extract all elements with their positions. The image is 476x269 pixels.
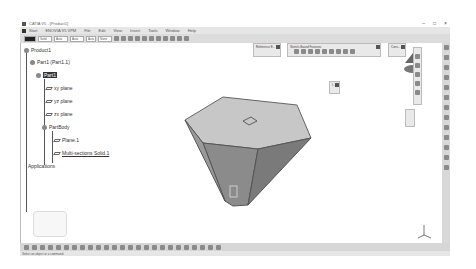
point-select[interactable]: Auto bbox=[70, 36, 84, 42]
tree-node-plane1[interactable]: Plane.1 bbox=[54, 137, 79, 143]
menu-file[interactable]: File bbox=[84, 28, 90, 33]
graphic-properties-toolbar: Solid Auto Auto Auto None bbox=[20, 34, 450, 43]
chamfer-icon[interactable] bbox=[444, 65, 449, 70]
layer-select[interactable]: Auto bbox=[86, 36, 96, 42]
save-icon[interactable] bbox=[40, 245, 45, 250]
thickness-select[interactable]: Auto bbox=[54, 36, 68, 42]
pan-icon[interactable] bbox=[120, 245, 125, 250]
sketch-icon[interactable] bbox=[184, 36, 189, 41]
tree-node-xy-plane[interactable]: xy plane bbox=[46, 85, 73, 91]
shaft-icon[interactable] bbox=[308, 49, 313, 54]
tree-node-yz-plane[interactable]: yz plane bbox=[46, 98, 73, 104]
mirror-icon[interactable] bbox=[444, 115, 449, 120]
tool-icon[interactable] bbox=[415, 54, 420, 59]
plane-icon bbox=[45, 100, 53, 103]
tool-icon[interactable] bbox=[415, 90, 420, 95]
hole-icon[interactable] bbox=[322, 49, 327, 54]
menu-help[interactable]: Help bbox=[188, 28, 196, 33]
update-icon[interactable] bbox=[96, 245, 101, 250]
normal-view-icon[interactable] bbox=[152, 245, 157, 250]
menu-enovia[interactable]: ENOVIA V5 VPM bbox=[45, 28, 76, 33]
minimize-button[interactable]: – bbox=[422, 20, 425, 26]
undo-icon[interactable] bbox=[80, 245, 85, 250]
fly-mode-icon[interactable] bbox=[104, 245, 109, 250]
close-icon[interactable] bbox=[401, 45, 405, 49]
open-icon[interactable] bbox=[32, 245, 37, 250]
analysis-icon[interactable] bbox=[216, 245, 221, 250]
thickness-icon[interactable] bbox=[444, 95, 449, 100]
close-icon[interactable] bbox=[276, 45, 280, 49]
transparency-select[interactable]: None bbox=[98, 36, 112, 42]
render-style-icon[interactable] bbox=[168, 245, 173, 250]
paste-icon[interactable] bbox=[72, 245, 77, 250]
maximize-button[interactable]: □ bbox=[433, 20, 436, 26]
zoom-in-icon[interactable] bbox=[136, 245, 141, 250]
close-icon[interactable] bbox=[335, 83, 339, 87]
redo-icon[interactable] bbox=[88, 245, 93, 250]
removed-multisection-icon[interactable] bbox=[350, 49, 355, 54]
tree-node-part1-instance[interactable]: Part1 (Part1.1) bbox=[30, 59, 70, 65]
measure-icon[interactable] bbox=[192, 245, 197, 250]
shell-icon[interactable] bbox=[444, 85, 449, 90]
swap-space-icon[interactable] bbox=[184, 245, 189, 250]
tree-node-part1[interactable]: Part1 bbox=[36, 72, 57, 78]
hide-show-icon[interactable] bbox=[176, 245, 181, 250]
cut-icon[interactable] bbox=[56, 245, 61, 250]
boolean-icon[interactable] bbox=[444, 145, 449, 150]
tree-node-applications[interactable]: Applications bbox=[28, 163, 55, 169]
workbench-icon[interactable] bbox=[444, 45, 449, 50]
shading-icon[interactable] bbox=[163, 36, 168, 41]
pad-icon[interactable] bbox=[294, 49, 299, 54]
menu-tools[interactable]: Tools bbox=[148, 28, 157, 33]
zoom-in-icon[interactable] bbox=[135, 36, 140, 41]
tree-node-product1[interactable]: Product1 bbox=[24, 47, 51, 53]
pocket-icon[interactable] bbox=[301, 49, 306, 54]
menu-view[interactable]: View bbox=[114, 28, 123, 33]
slot-icon[interactable] bbox=[336, 49, 341, 54]
groove-icon[interactable] bbox=[315, 49, 320, 54]
menu-insert[interactable]: Insert bbox=[130, 28, 140, 33]
multisection-solid-icon[interactable] bbox=[343, 49, 348, 54]
linetype-select[interactable]: Solid bbox=[38, 36, 52, 42]
print-icon[interactable] bbox=[48, 245, 53, 250]
rib-icon[interactable] bbox=[329, 49, 334, 54]
hide-show-icon[interactable] bbox=[170, 36, 175, 41]
tree-node-partbody[interactable]: PartBody bbox=[42, 124, 70, 130]
tool-icon[interactable] bbox=[415, 63, 420, 68]
painter-icon[interactable] bbox=[114, 36, 119, 41]
color-select[interactable] bbox=[24, 36, 36, 42]
sketcher-icon[interactable] bbox=[208, 245, 213, 250]
tree-node-multisections-solid[interactable]: Multi-sections Solid.1 bbox=[54, 150, 109, 156]
tree-node-zx-plane[interactable]: zx plane bbox=[46, 111, 73, 117]
views-icon[interactable] bbox=[160, 245, 165, 250]
hexagonal-loft-solid[interactable] bbox=[173, 83, 321, 223]
scaling-icon[interactable] bbox=[444, 135, 449, 140]
axis-icon[interactable] bbox=[444, 165, 449, 170]
sketch-icon[interactable] bbox=[444, 155, 449, 160]
fillet-icon[interactable] bbox=[444, 55, 449, 60]
tool-icon[interactable] bbox=[415, 81, 420, 86]
normal-view-icon[interactable] bbox=[149, 36, 154, 41]
menu-edit[interactable]: Edit bbox=[99, 28, 106, 33]
material-icon[interactable] bbox=[200, 245, 205, 250]
new-icon[interactable] bbox=[24, 245, 29, 250]
copy-icon[interactable] bbox=[64, 245, 69, 250]
measure-icon[interactable] bbox=[177, 36, 182, 41]
fit-all-icon[interactable] bbox=[156, 36, 161, 41]
catia-window: CATIA V5 - [Product1] – □ × Start ENOVIA… bbox=[20, 20, 450, 256]
zoom-out-icon[interactable] bbox=[142, 36, 147, 41]
pan-icon[interactable] bbox=[121, 36, 126, 41]
menu-window[interactable]: Window bbox=[165, 28, 179, 33]
draft-icon[interactable] bbox=[444, 75, 449, 80]
thread-icon[interactable] bbox=[444, 105, 449, 110]
rotate-icon[interactable] bbox=[128, 36, 133, 41]
close-button[interactable]: × bbox=[444, 20, 447, 26]
3d-viewport[interactable]: Product1 Part1 (Part1.1) Part1 xy plane … bbox=[20, 43, 442, 243]
close-icon[interactable] bbox=[376, 45, 380, 49]
rotate-icon[interactable] bbox=[128, 245, 133, 250]
zoom-out-icon[interactable] bbox=[144, 245, 149, 250]
menu-start[interactable]: Start bbox=[29, 28, 37, 33]
fit-all-icon[interactable] bbox=[112, 245, 117, 250]
pattern-icon[interactable] bbox=[444, 125, 449, 130]
tool-icon[interactable] bbox=[415, 72, 420, 77]
